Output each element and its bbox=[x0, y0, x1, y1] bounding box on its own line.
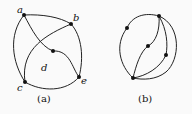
vertex-c bbox=[23, 80, 27, 84]
vertex-middle bbox=[146, 44, 150, 48]
edge-middle-bottom bbox=[133, 46, 148, 78]
edge-top-outer-bottom bbox=[133, 16, 176, 79]
edge-e-c bbox=[25, 77, 79, 89]
label-a: a bbox=[17, 4, 23, 15]
edge-b-c bbox=[24, 24, 71, 82]
figure: a b d e c (a) (b) bbox=[0, 0, 192, 114]
edge-d-e bbox=[53, 51, 79, 77]
edge-top-left bbox=[127, 15, 159, 29]
label-e: e bbox=[81, 75, 87, 86]
edge-top-middle bbox=[148, 16, 159, 46]
label-b: b bbox=[73, 12, 79, 23]
edge-c-a bbox=[14, 15, 25, 82]
vertex-bottom bbox=[131, 76, 135, 80]
caption-b: (b) bbox=[138, 93, 152, 104]
edge-b-e bbox=[71, 24, 82, 77]
vertex-top bbox=[157, 14, 161, 18]
graph-diagrams: a b d e c (a) (b) bbox=[0, 0, 192, 114]
edge-a-d bbox=[24, 15, 53, 51]
vertex-d bbox=[51, 49, 55, 53]
edge-top-right bbox=[159, 16, 167, 55]
edge-left-bottom bbox=[120, 28, 133, 78]
label-c: c bbox=[17, 82, 23, 93]
edge-right-bottom bbox=[133, 55, 166, 78]
caption-a: (a) bbox=[37, 93, 51, 104]
graph-a: a b d e c (a) bbox=[14, 4, 87, 104]
edge-a-b bbox=[24, 15, 71, 24]
vertex-right bbox=[164, 53, 168, 57]
graph-b: (b) bbox=[120, 14, 177, 104]
vertex-left bbox=[125, 26, 129, 30]
label-d: d bbox=[41, 62, 47, 73]
